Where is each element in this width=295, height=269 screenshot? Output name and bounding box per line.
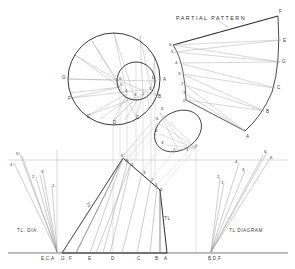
top-view-label-D: D: [113, 120, 117, 125]
front-view-tl-label-left: TL: [85, 201, 92, 209]
baseline-label-C: C: [137, 256, 141, 261]
partial-pattern-group: PARTIAL PATTERN F E G C B A 6 5 4 3 2 1 …: [169, 9, 286, 139]
front-view-label-3: 3: [143, 170, 146, 175]
baseline-label-D: D: [111, 256, 115, 261]
tl-left-label-4: 4: [10, 162, 13, 167]
tl-right-label-5: 5: [270, 155, 273, 160]
pattern-outer-arc: [245, 16, 279, 131]
baseline-label-row: E,C,A G F E D C B A B,D,F: [41, 256, 221, 261]
front-view-label-0: 0: [160, 187, 163, 192]
top-view-outer-labels: A B C D E F G: [62, 75, 167, 125]
ellipse-label-2: 2: [173, 147, 176, 152]
baseline-label-ECA: E,C,A: [41, 256, 55, 261]
baseline-label-G: G: [61, 256, 65, 261]
inner-circle-label-1: 1: [149, 86, 152, 91]
ellipse-label-0: 0: [195, 143, 198, 148]
inner-circle-label-4: 4: [125, 88, 128, 93]
baseline-label-BDF: B,D,F: [208, 256, 221, 261]
pattern-label-6: 6: [169, 42, 172, 47]
ellipse-label-4: 4: [155, 128, 158, 133]
pattern-label-5: 5: [171, 49, 174, 54]
inner-circle-label-2: 2: [142, 91, 145, 96]
ellipse-label-3: 3: [161, 140, 164, 145]
pattern-label-E: E: [283, 38, 286, 43]
inner-circle-label-5: 5: [120, 82, 123, 87]
pattern-label-C: C: [277, 85, 281, 90]
baseline-label-B: B: [155, 256, 158, 261]
front-view-label-2: 2: [151, 177, 154, 182]
front-view-tl-label-right: TL: [164, 216, 171, 221]
technical-drawing-sheet: A B C D E F G 0 1 2 3 4 5 6 6 5 4 3 2 1: [0, 0, 295, 269]
drawing-canvas: A B C D E F G 0 1 2 3 4 5 6 6 5 4 3 2 1: [0, 0, 295, 269]
pattern-label-4: 4: [175, 60, 178, 65]
pattern-label-F: F: [279, 9, 282, 14]
ellipse-label-5: 5: [156, 116, 159, 121]
pattern-label-B: B: [266, 109, 269, 114]
ellipse-label-6: 6: [161, 106, 164, 111]
top-view-label-E: E: [87, 114, 90, 119]
top-view-label-C: C: [136, 115, 140, 120]
top-view-label-G: G: [62, 75, 66, 80]
ellipse-label-1: 1: [186, 147, 189, 152]
auxiliary-ellipse-group: 6 5 4 3 2 1 0: [147, 102, 210, 161]
tl-diagram-right-group: 6 5 4 3 2 1 TL DIAGRAM: [211, 149, 273, 252]
tl-diagram-left-group: 5 4 3 2 1 TL. DIA.: [10, 151, 57, 252]
front-view-label-6: 6: [121, 153, 124, 158]
front-view-group: TL TL 6 5 4 3 2 1 0: [62, 153, 171, 253]
tl-right-lines: [211, 152, 271, 252]
front-view-label-4: 4: [131, 162, 134, 167]
tl-diagram-right-caption: TL DIAGRAM: [229, 228, 263, 233]
baseline-label-F: F: [69, 256, 72, 261]
partial-pattern-title: PARTIAL PATTERN: [176, 15, 246, 21]
pattern-label-3: 3: [178, 71, 181, 76]
pattern-label-0: 0: [183, 98, 186, 103]
tl-left-lines: [14, 152, 57, 252]
baseline-label-A: A: [164, 256, 168, 261]
top-view-label-F: F: [68, 96, 71, 101]
pattern-label-A: A: [246, 134, 250, 139]
top-view-label-A: A: [163, 77, 167, 82]
tl-right-label-3: 3: [242, 167, 245, 172]
pattern-triangulation-lines: [173, 40, 281, 131]
tl-left-label-5: 5: [16, 151, 19, 156]
baseline-label-E: E: [88, 256, 91, 261]
tl-left-label-2: 2: [32, 174, 35, 179]
inner-circle-label-3: 3: [134, 92, 137, 97]
pattern-label-G: G: [282, 59, 286, 64]
top-view-outer-circle: [68, 33, 160, 125]
tl-dia-left-caption: TL. DIA.: [17, 228, 39, 233]
tl-right-label-2: 2: [217, 174, 220, 179]
tl-left-label-1: 1: [52, 183, 55, 188]
pattern-label-2: 2: [181, 81, 184, 86]
tl-left-label-3: 3: [41, 169, 44, 174]
top-view-label-B: B: [158, 94, 161, 99]
auxiliary-ellipse-element-lines: [158, 113, 196, 150]
